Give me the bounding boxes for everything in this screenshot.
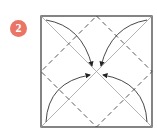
origami-fold-diagram [0, 0, 157, 132]
